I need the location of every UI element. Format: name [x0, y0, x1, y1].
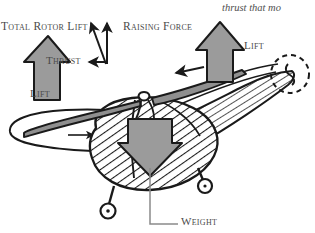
vector-rotor-thrust-right — [176, 67, 204, 73]
diagram-canvas — [0, 0, 315, 233]
label-total-rotor-lift: Total Rotor Lift — [1, 21, 88, 33]
label-lift-left: Lift — [30, 88, 50, 99]
landing-gear-wheel-front — [101, 186, 116, 219]
landing-gear-wheel-rear — [198, 168, 212, 193]
helicopter-forces-figure: thrust that mo Total Rotor Lift Raising … — [0, 0, 315, 233]
label-lift-right: Lift — [244, 40, 264, 51]
label-raising-force: Raising Force — [123, 21, 192, 33]
label-thrust: Thrust — [46, 55, 81, 66]
running-body-text-clipped: thrust that mo — [222, 3, 281, 14]
label-weight: Weight — [181, 216, 217, 227]
vector-total-rotor-lift — [91, 23, 106, 64]
